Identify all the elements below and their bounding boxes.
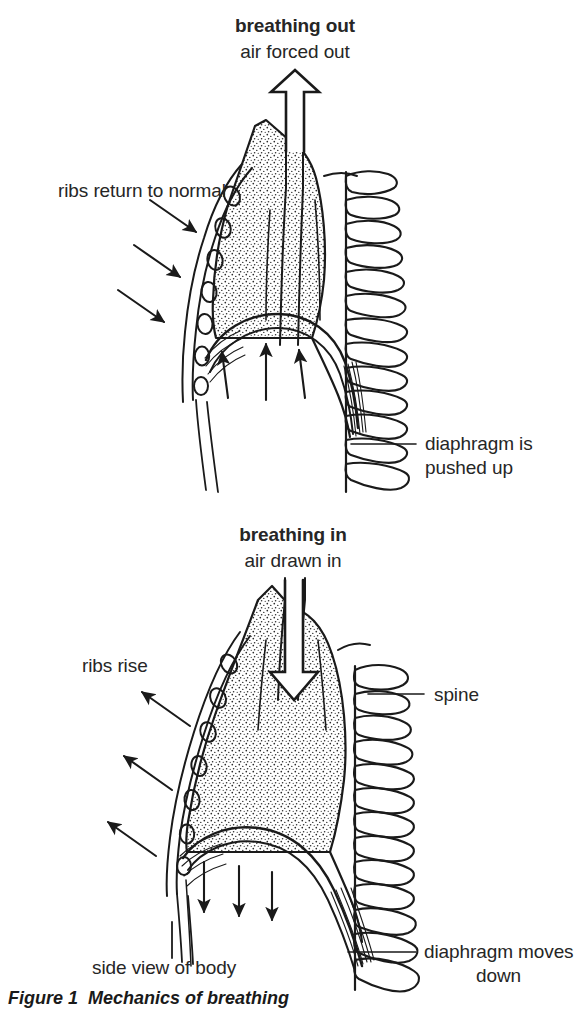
diaphragm-motion-arrows-bottom [204, 862, 272, 920]
label-ribs-rise: ribs rise [82, 654, 148, 677]
panel-top-subtitle: air forced out [195, 40, 395, 63]
lung-bottom [186, 586, 370, 942]
panel-bottom-artwork [108, 578, 424, 991]
label-diaphragm-moves-down-line1: diaphragm moves [424, 940, 574, 963]
lung-top [213, 120, 357, 437]
label-diaphragm-pushed-up-line1: diaphragm is [425, 432, 533, 455]
label-diaphragm-pushed-up-line2: pushed up [425, 456, 513, 479]
label-side-view-of-body: side view of body [92, 956, 236, 979]
diaphragm-motion-arrows-top [222, 344, 305, 400]
panel-top-title: breathing out [195, 14, 395, 37]
label-spine: spine [434, 683, 479, 706]
panel-bottom-subtitle: air drawn in [193, 549, 393, 572]
rib-motion-arrows-top [118, 200, 196, 322]
label-diaphragm-moves-down-line2: down [424, 964, 573, 987]
spine-bottom [354, 665, 419, 991]
panel-bottom-title: breathing in [193, 523, 393, 546]
figure-caption: Figure 1 Mechanics of breathing [8, 988, 289, 1009]
rib-motion-arrows-bottom [108, 692, 190, 856]
label-ribs-return-to-normal: ribs return to normal [58, 179, 226, 202]
panel-top-artwork [118, 70, 416, 492]
